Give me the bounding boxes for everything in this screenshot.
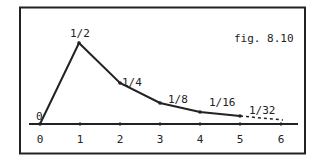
figure-frame	[20, 8, 305, 154]
figure-8-10: 0 1 2 3 4 5 6 0 1/2 1/4 1/8 1/16 1/32 fi…	[0, 0, 324, 162]
x-tick-1: 1	[77, 133, 84, 146]
point-label-5: 1/32	[249, 104, 276, 117]
point-label-3: 1/8	[168, 93, 188, 106]
x-tick-6: 6	[278, 133, 285, 146]
point-label-0: 0	[36, 110, 43, 123]
x-tick-3: 3	[157, 133, 164, 146]
point-label-4: 1/16	[209, 96, 236, 109]
x-tick-2: 2	[117, 133, 124, 146]
x-tick-labels: 0 1 2 3 4 5 6	[37, 133, 285, 146]
figure-caption: fig. 8.10	[234, 32, 294, 45]
x-tick-4: 4	[197, 133, 204, 146]
point-label-2: 1/4	[122, 76, 142, 89]
x-tick-0: 0	[37, 133, 44, 146]
x-tick-5: 5	[237, 133, 244, 146]
point-label-1: 1/2	[70, 27, 90, 40]
